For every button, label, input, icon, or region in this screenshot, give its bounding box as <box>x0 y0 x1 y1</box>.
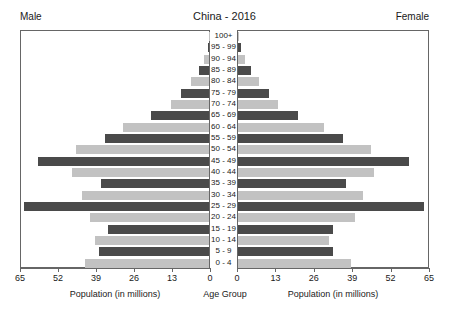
bar-row <box>238 246 428 257</box>
bar-male-7074 <box>171 100 209 109</box>
bar-male-2529 <box>24 202 209 211</box>
age-group-label: 75 - 79 <box>210 87 237 98</box>
axis-tick-label: 52 <box>386 273 396 284</box>
bar-row <box>21 201 209 212</box>
bar-female-6064 <box>238 123 324 132</box>
age-group-label: 55 - 59 <box>210 132 237 143</box>
age-group-label: 40 - 44 <box>210 166 237 177</box>
age-group-label: 20 - 24 <box>210 211 237 222</box>
age-group-label: 15 - 19 <box>210 223 237 234</box>
bar-row <box>238 31 428 42</box>
bar-row <box>238 190 428 201</box>
bar-male-6064 <box>123 123 209 132</box>
bar-male-6569 <box>151 111 209 120</box>
bar-female-100plus <box>238 32 239 41</box>
bar-female-4044 <box>238 168 374 177</box>
population-pyramid-chart: Male China - 2016 Female 100+95 - 9990 -… <box>0 0 449 319</box>
age-group-label: 45 - 49 <box>210 155 237 166</box>
age-group-label: 5 - 9 <box>210 245 237 256</box>
bar-male-04 <box>85 259 209 268</box>
bar-male-3034 <box>82 191 209 200</box>
bar-row <box>21 65 209 76</box>
axis-tick-label: 13 <box>270 273 280 284</box>
bar-female-2024 <box>238 213 355 222</box>
axis-tick <box>172 268 173 272</box>
bar-female-1014 <box>238 236 329 245</box>
axis-line <box>237 268 429 269</box>
axis-tick-label: 26 <box>129 273 139 284</box>
bar-male-1014 <box>95 236 209 245</box>
bar-row <box>21 156 209 167</box>
bar-row <box>21 76 209 87</box>
axis-line <box>20 268 210 269</box>
bar-row <box>238 178 428 189</box>
bar-male-9599 <box>208 43 209 52</box>
bar-row <box>238 167 428 178</box>
bar-male-4549 <box>38 157 209 166</box>
bar-row <box>21 212 209 223</box>
bar-row <box>238 99 428 110</box>
female-bar-rows <box>238 31 428 267</box>
bar-row <box>21 133 209 144</box>
bar-female-04 <box>238 259 351 268</box>
axis-tick-label: 26 <box>309 273 319 284</box>
bar-female-1519 <box>238 225 333 234</box>
male-plot-panel <box>20 30 210 268</box>
chart-title: China - 2016 <box>0 10 449 23</box>
axis-tick <box>391 268 392 272</box>
bar-male-1519 <box>108 225 209 234</box>
female-axis-title: Population (in millions) <box>237 289 429 300</box>
age-group-axis: 100+95 - 9990 - 9485 - 8980 - 8475 - 797… <box>210 30 237 268</box>
age-group-label: 30 - 34 <box>210 189 237 200</box>
bar-row <box>21 190 209 201</box>
bar-row <box>238 224 428 235</box>
bar-row <box>238 235 428 246</box>
axis-tick <box>58 268 59 272</box>
axis-tick <box>314 268 315 272</box>
bar-male-3539 <box>101 179 209 188</box>
bar-row <box>238 201 428 212</box>
bar-row <box>21 54 209 65</box>
age-group-label: 90 - 94 <box>210 53 237 64</box>
bar-male-2024 <box>90 213 209 222</box>
bar-row <box>238 212 428 223</box>
bar-row <box>21 144 209 155</box>
axis-tick-label: 39 <box>347 273 357 284</box>
bar-row <box>238 156 428 167</box>
axis-tick <box>96 268 97 272</box>
bar-male-4044 <box>72 168 209 177</box>
bar-row <box>21 88 209 99</box>
bar-row <box>21 178 209 189</box>
age-group-label: 95 - 99 <box>210 41 237 52</box>
axis-tick <box>134 268 135 272</box>
axis-tick-label: 0 <box>234 273 239 284</box>
female-x-axis: 01326395265 <box>237 268 429 286</box>
bar-row <box>21 110 209 121</box>
age-group-label: 10 - 14 <box>210 234 237 245</box>
bar-row <box>238 122 428 133</box>
age-group-label: 60 - 64 <box>210 121 237 132</box>
bar-row <box>21 31 209 42</box>
axis-tick-label: 52 <box>53 273 63 284</box>
age-group-label: 85 - 89 <box>210 64 237 75</box>
bar-female-4549 <box>238 157 409 166</box>
age-group-label: 70 - 74 <box>210 98 237 109</box>
bar-row <box>21 42 209 53</box>
axis-tick-label: 0 <box>207 273 212 284</box>
bar-row <box>21 167 209 178</box>
bar-female-8084 <box>238 77 259 86</box>
axis-tick <box>20 268 21 272</box>
female-side-label: Female <box>396 11 429 23</box>
bar-male-5559 <box>105 134 209 143</box>
axis-tick <box>210 268 211 272</box>
bar-female-6569 <box>238 111 298 120</box>
female-plot-panel <box>237 30 429 268</box>
bar-row <box>21 122 209 133</box>
bar-female-3539 <box>238 179 346 188</box>
bar-male-5054 <box>76 145 209 154</box>
bar-female-7074 <box>238 100 278 109</box>
bar-female-2529 <box>238 202 424 211</box>
bar-female-8589 <box>238 66 251 75</box>
bar-row <box>238 88 428 99</box>
bar-female-5054 <box>238 145 371 154</box>
